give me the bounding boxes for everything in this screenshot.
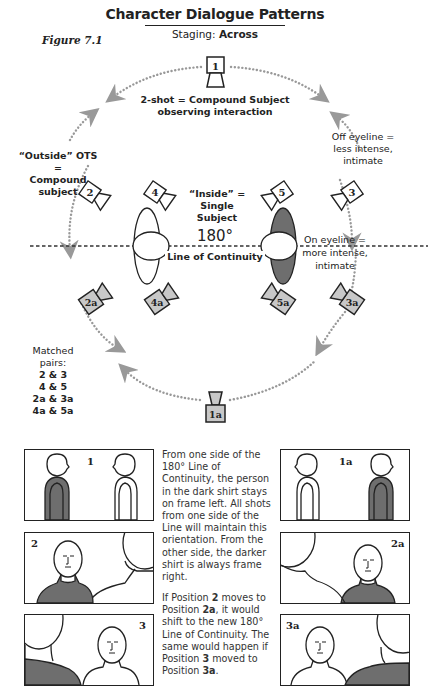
two-shot-line-1: 2-shot = Compound Subject (130, 94, 300, 106)
two-shot-annotation: 2-shot = Compound Subject observing inte… (130, 94, 300, 118)
camera-4-icon: 4 (143, 180, 175, 210)
camera-5-icon: 5 (261, 180, 293, 210)
frame-2a: 2a (280, 532, 410, 604)
outside-ots-annotation: “Outside” OTS = Compound subject (18, 150, 98, 198)
off-eyeline-annotation: Off eyeline = less intense, intimate (326, 131, 400, 167)
camera-5a-icon: 5a (261, 283, 295, 314)
svg-text:4a: 4a (151, 297, 164, 308)
text-run: If Position (162, 592, 212, 603)
camera-1a-icon: 1a (206, 392, 225, 422)
off-eyeline-line-3: intimate (326, 155, 400, 167)
svg-text:3a: 3a (346, 297, 359, 308)
line-degrees: 180° (170, 228, 260, 244)
outside-ots-line-1: “Outside” OTS = (18, 150, 98, 174)
svg-text:3: 3 (349, 187, 356, 198)
camera-2a-icon: 2a (78, 283, 112, 314)
text-run: . (216, 665, 219, 676)
matched-pair: 2a & 3a (18, 393, 88, 405)
matched-pair: 4 & 5 (18, 381, 88, 393)
svg-text:1a: 1a (209, 409, 222, 420)
position-ref: 2a (202, 604, 215, 615)
frame-3a: 3a (280, 614, 410, 686)
two-shot-line-2: observing interaction (130, 106, 300, 118)
outside-ots-line-2: Compound (18, 174, 98, 186)
frame-1a-number: 1a (339, 456, 352, 467)
on-eyeline-line-2: more intense, (300, 246, 370, 259)
frame-1-number: 1 (87, 456, 94, 467)
explanation-paragraph-1: From one side of the 180° Line of Contin… (162, 449, 274, 583)
line-of-continuity-label: Line of Continuity (165, 251, 265, 263)
frame-1a: 1a (280, 449, 410, 521)
svg-text:2a: 2a (85, 297, 98, 308)
frame-2: 2 (24, 532, 154, 604)
off-eyeline-line-2: less intense, (326, 143, 400, 155)
matched-pair: 2 & 3 (18, 369, 88, 381)
matched-pair: 4a & 5a (18, 405, 88, 417)
on-eyeline-line-3: intimate (300, 259, 370, 272)
frame-2a-number: 2a (391, 538, 404, 549)
frame-1: 1 (24, 449, 154, 521)
actor-left-white (133, 208, 169, 284)
camera-1-icon: 1 (207, 57, 224, 87)
explanation-paragraph-2: If Position 2 moves to Position 2a, it w… (162, 592, 274, 677)
camera-3a-icon: 3a (330, 283, 364, 314)
on-eyeline-line-1: On eyeline = (300, 233, 370, 246)
actor-right-dark (261, 208, 297, 284)
matched-pairs-heading: Matched pairs: (18, 345, 88, 369)
svg-text:1: 1 (212, 61, 219, 72)
off-eyeline-line-1: Off eyeline = (326, 131, 400, 143)
svg-text:5: 5 (279, 187, 286, 198)
svg-text:5a: 5a (277, 297, 290, 308)
on-eyeline-annotation: On eyeline = more intense, intimate (300, 233, 370, 272)
frame-3: 3 (24, 614, 154, 686)
svg-text:4: 4 (152, 187, 159, 198)
inside-annotation: “Inside” = Single Subject (174, 188, 260, 224)
position-ref: 3a (202, 665, 215, 676)
frame-3a-number: 3a (286, 620, 299, 631)
frame-3-number: 3 (139, 620, 146, 631)
camera-4a-icon: 4a (144, 283, 178, 314)
outside-ots-line-3: subject (18, 186, 98, 198)
matched-pairs: Matched pairs: 2 & 3 4 & 5 2a & 3a 4a & … (18, 345, 88, 417)
frame-2-number: 2 (31, 538, 38, 549)
inside-line-1: “Inside” = Single (174, 188, 260, 212)
inside-line-2: Subject (174, 212, 260, 224)
